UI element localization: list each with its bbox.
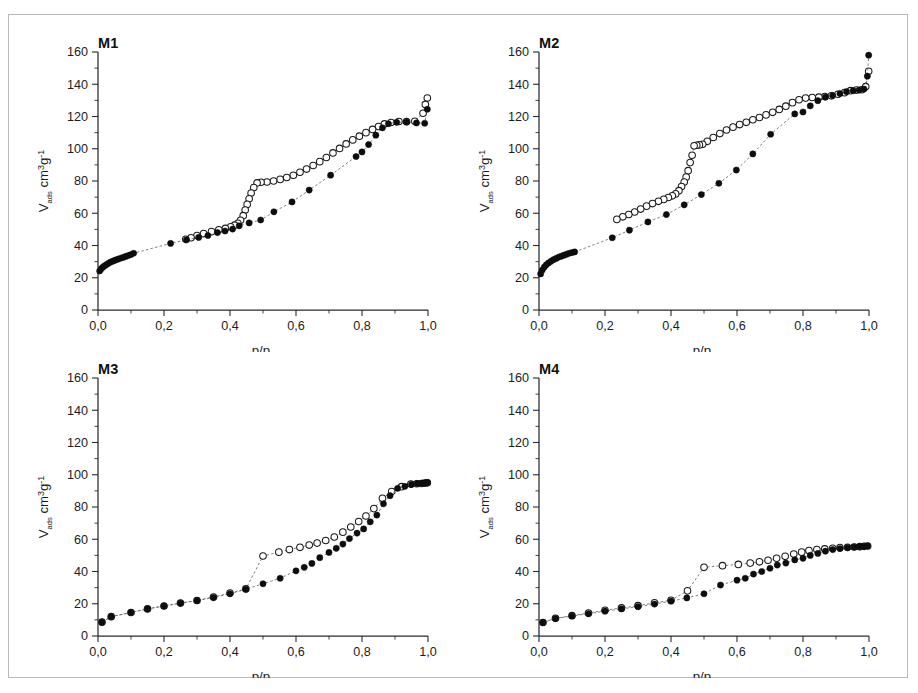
svg-text:1,0: 1,0	[419, 319, 437, 333]
panel-label-m2: M2	[539, 35, 560, 51]
svg-text:0,6: 0,6	[287, 645, 305, 659]
svg-text:0,2: 0,2	[155, 645, 173, 659]
svg-text:100: 100	[508, 468, 529, 482]
svg-text:0,4: 0,4	[221, 319, 239, 333]
svg-text:60: 60	[515, 207, 529, 221]
panel-m2: 0204060801001201401600,00,20,40,60,81,0p…	[455, 22, 895, 352]
svg-text:0: 0	[81, 303, 88, 317]
chart-m3: 0204060801001201401600,00,20,40,60,81,0p…	[14, 348, 454, 678]
svg-text:0,8: 0,8	[353, 645, 371, 659]
svg-text:Vads cm3g-1: Vads cm3g-1	[36, 150, 54, 213]
svg-text:0,8: 0,8	[353, 319, 371, 333]
svg-text:1,0: 1,0	[860, 319, 878, 333]
svg-text:40: 40	[74, 565, 88, 579]
svg-text:0,6: 0,6	[728, 645, 746, 659]
svg-text:160: 160	[508, 371, 529, 385]
panel-label-m3: M3	[98, 361, 119, 377]
svg-text:20: 20	[74, 271, 88, 285]
panel-m3: 0204060801001201401600,00,20,40,60,81,0p…	[14, 348, 454, 678]
svg-text:0,2: 0,2	[596, 319, 614, 333]
svg-text:120: 120	[67, 436, 88, 450]
svg-text:p/p0: p/p0	[693, 669, 716, 678]
svg-text:120: 120	[67, 110, 88, 124]
svg-text:0,6: 0,6	[728, 319, 746, 333]
svg-text:80: 80	[74, 174, 88, 188]
svg-text:40: 40	[74, 239, 88, 253]
svg-text:0: 0	[522, 629, 529, 643]
chart-m1: 0204060801001201401600,00,20,40,60,81,0p…	[14, 22, 454, 352]
svg-text:160: 160	[67, 371, 88, 385]
svg-text:80: 80	[515, 500, 529, 514]
svg-text:140: 140	[508, 404, 529, 418]
svg-text:0,0: 0,0	[89, 319, 107, 333]
svg-text:100: 100	[67, 468, 88, 482]
svg-text:60: 60	[515, 533, 529, 547]
svg-text:0,0: 0,0	[530, 319, 548, 333]
svg-text:20: 20	[515, 597, 529, 611]
chart-m4: 0204060801001201401600,00,20,40,60,81,0p…	[455, 348, 895, 678]
svg-text:40: 40	[515, 239, 529, 253]
svg-text:0,8: 0,8	[794, 645, 812, 659]
svg-text:120: 120	[508, 436, 529, 450]
panel-m1: 0204060801001201401600,00,20,40,60,81,0p…	[14, 22, 454, 352]
svg-text:0,4: 0,4	[662, 645, 680, 659]
svg-text:Vads cm3g-1: Vads cm3g-1	[477, 150, 495, 213]
svg-text:140: 140	[67, 78, 88, 92]
svg-text:100: 100	[67, 142, 88, 156]
svg-text:60: 60	[74, 533, 88, 547]
svg-text:p/p0: p/p0	[252, 669, 275, 678]
figure-root: 0204060801001201401600,00,20,40,60,81,0p…	[0, 0, 918, 693]
svg-text:140: 140	[508, 78, 529, 92]
svg-text:100: 100	[508, 142, 529, 156]
panel-label-m4: M4	[539, 361, 560, 377]
svg-text:1,0: 1,0	[419, 645, 437, 659]
svg-text:40: 40	[515, 565, 529, 579]
svg-text:80: 80	[515, 174, 529, 188]
svg-text:Vads cm3g-1: Vads cm3g-1	[36, 476, 54, 539]
panel-label-m1: M1	[98, 35, 119, 51]
svg-text:0,8: 0,8	[794, 319, 812, 333]
svg-text:0,4: 0,4	[221, 645, 239, 659]
svg-text:20: 20	[515, 271, 529, 285]
svg-text:20: 20	[74, 597, 88, 611]
svg-text:160: 160	[508, 45, 529, 59]
svg-text:0,4: 0,4	[662, 319, 680, 333]
panel-m4: 0204060801001201401600,00,20,40,60,81,0p…	[455, 348, 895, 678]
svg-text:140: 140	[67, 404, 88, 418]
svg-text:Vads cm3g-1: Vads cm3g-1	[477, 476, 495, 539]
chart-m2: 0204060801001201401600,00,20,40,60,81,0p…	[455, 22, 895, 352]
svg-text:0,0: 0,0	[89, 645, 107, 659]
svg-text:0: 0	[81, 629, 88, 643]
svg-text:0,2: 0,2	[155, 319, 173, 333]
svg-text:160: 160	[67, 45, 88, 59]
svg-text:60: 60	[74, 207, 88, 221]
svg-text:80: 80	[74, 500, 88, 514]
svg-text:1,0: 1,0	[860, 645, 878, 659]
svg-text:120: 120	[508, 110, 529, 124]
svg-text:0,0: 0,0	[530, 645, 548, 659]
svg-text:0,2: 0,2	[596, 645, 614, 659]
svg-text:0,6: 0,6	[287, 319, 305, 333]
svg-text:0: 0	[522, 303, 529, 317]
